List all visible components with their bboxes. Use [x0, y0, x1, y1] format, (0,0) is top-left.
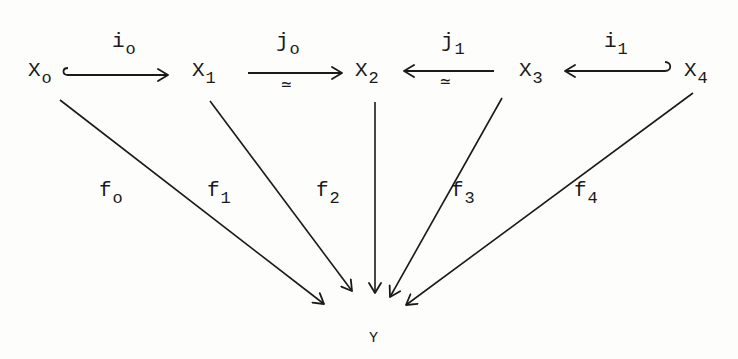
label-f3: f3: [451, 180, 475, 207]
label-i0: io: [112, 31, 136, 58]
label-f4: f4: [574, 180, 598, 207]
label-f0: fo: [99, 180, 123, 207]
node-x1: X1: [192, 60, 216, 87]
node-x2: X2: [355, 60, 379, 87]
node-x4: X4: [684, 60, 708, 87]
arrow-f4: [406, 93, 693, 305]
label-f2: f2: [316, 180, 340, 207]
iso-symbol-j1: ≃: [440, 74, 450, 91]
iso-symbol-j0: ≃: [281, 77, 291, 94]
label-f1: f1: [207, 180, 231, 207]
label-j0: jo: [276, 31, 300, 58]
arrow-i0: [64, 68, 169, 75]
arrow-f3: [390, 98, 502, 297]
diagram-canvas: Xo X1 X2 X3 X4 Y io jo ≃ j1 ≃ i1 fo f1 f…: [0, 0, 738, 359]
label-j1: j1: [441, 31, 465, 58]
node-x3: X3: [519, 60, 543, 87]
node-y: Y: [369, 330, 378, 346]
node-x0: Xo: [28, 60, 52, 87]
label-i1: i1: [604, 31, 628, 58]
arrow-i1: [565, 62, 670, 71]
